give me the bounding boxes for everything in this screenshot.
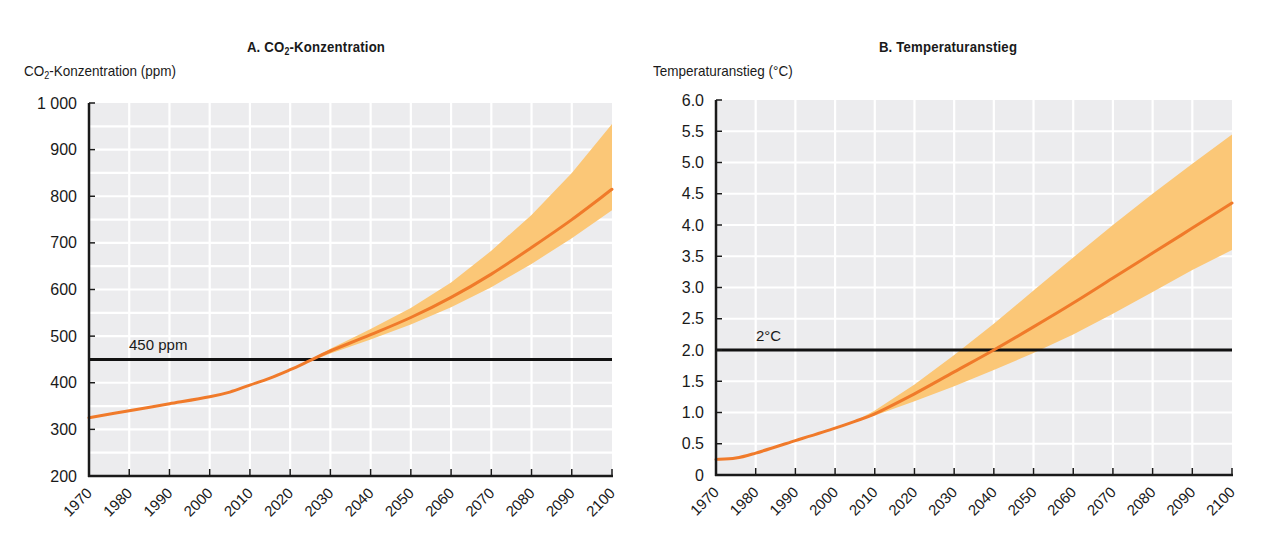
y-tick-label: 4.0 <box>682 217 704 234</box>
x-tick-label: 1970 <box>687 483 723 519</box>
chart-a-panel: A. CO2-Konzentration CO2-Konzentration (… <box>0 0 632 551</box>
chart-b-plot: 2°C00.51.01.52.02.53.03.54.04.55.05.56.0… <box>632 0 1264 551</box>
y-tick-label: 300 <box>50 421 77 438</box>
x-tick-label: 2050 <box>381 484 417 520</box>
y-tick-label: 0 <box>695 467 704 484</box>
y-tick-label: 3.5 <box>682 248 704 265</box>
y-tick-label: 3.0 <box>682 279 704 296</box>
y-tick-label: 2.0 <box>682 342 704 359</box>
y-tick-label: 6.0 <box>682 92 704 109</box>
x-tick-label: 2090 <box>1163 483 1199 519</box>
x-tick-label: 2060 <box>422 484 458 520</box>
x-tick-label: 2050 <box>1004 483 1040 519</box>
x-tick-label: 2030 <box>301 484 337 520</box>
x-tick-label: 1990 <box>140 484 176 520</box>
x-tick-label: 1970 <box>60 484 96 520</box>
x-tick-label: 2060 <box>1044 483 1080 519</box>
x-tick-label: 2030 <box>925 483 961 519</box>
x-tick-label: 1980 <box>100 484 136 520</box>
x-tick-label: 2070 <box>1083 483 1119 519</box>
x-tick-label: 2010 <box>845 483 881 519</box>
x-tick-label: 2100 <box>583 484 619 520</box>
y-tick-label: 600 <box>50 281 77 298</box>
x-tick-label: 2070 <box>462 484 498 520</box>
x-tick-label: 1980 <box>726 483 762 519</box>
x-tick-label: 2000 <box>806 483 842 519</box>
x-tick-label: 2080 <box>1123 483 1159 519</box>
chart-b-panel: B. Temperaturanstieg Temperaturanstieg (… <box>632 0 1264 551</box>
y-tick-label: 200 <box>50 468 77 485</box>
y-tick-label: 700 <box>50 234 77 251</box>
y-tick-label: 800 <box>50 188 77 205</box>
chart-a-plot: 450 ppm2003004005006007008009001 0001970… <box>0 0 632 551</box>
x-tick-label: 2010 <box>220 484 256 520</box>
y-tick-label: 2.5 <box>682 310 704 327</box>
threshold-label: 450 ppm <box>129 336 187 353</box>
x-tick-label: 2020 <box>885 483 921 519</box>
y-tick-label: 500 <box>50 328 77 345</box>
x-tick-label: 2040 <box>341 484 377 520</box>
x-tick-label: 1990 <box>766 483 802 519</box>
x-tick-label: 2090 <box>542 484 578 520</box>
y-tick-label: 1.0 <box>682 404 704 421</box>
y-tick-label: 0.5 <box>682 435 704 452</box>
x-tick-label: 2000 <box>180 484 216 520</box>
x-tick-label: 2100 <box>1203 483 1239 519</box>
y-tick-label: 4.5 <box>682 185 704 202</box>
threshold-label: 2°C <box>756 327 781 344</box>
y-tick-label: 5.0 <box>682 154 704 171</box>
x-tick-label: 2040 <box>964 483 1000 519</box>
y-tick-label: 400 <box>50 374 77 391</box>
y-tick-label: 5.5 <box>682 123 704 140</box>
y-tick-label: 900 <box>50 141 77 158</box>
y-tick-label: 1 000 <box>37 95 77 112</box>
x-tick-label: 2020 <box>261 484 297 520</box>
x-tick-label: 2080 <box>502 484 538 520</box>
y-tick-label: 1.5 <box>682 373 704 390</box>
